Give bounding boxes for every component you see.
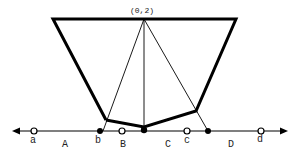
open-point-B bbox=[119, 128, 125, 134]
filled-point-center bbox=[141, 127, 147, 133]
thick-polygon bbox=[53, 19, 236, 127]
point-label-b: b bbox=[95, 135, 101, 146]
open-point-c bbox=[184, 128, 190, 134]
region-label-D: D bbox=[228, 139, 234, 150]
point-label-c: c bbox=[184, 135, 190, 146]
region-label-B: B bbox=[120, 139, 126, 150]
ray-to-d bbox=[144, 19, 208, 131]
apex-rays bbox=[103, 19, 208, 131]
filled-point-b bbox=[97, 128, 103, 134]
left-arrow-icon bbox=[12, 128, 20, 135]
point-label-d: d bbox=[257, 134, 263, 145]
filled-point-d bbox=[205, 128, 211, 134]
apex-label: (0,2) bbox=[130, 6, 154, 15]
point-label-a: a bbox=[30, 135, 36, 146]
open-point-a bbox=[31, 128, 37, 134]
right-arrow-icon bbox=[280, 128, 288, 135]
number-line bbox=[12, 128, 288, 135]
region-label-A: A bbox=[62, 139, 68, 150]
diagram-canvas: (0,2) a A b B C c D d bbox=[0, 0, 300, 154]
region-label-C: C bbox=[165, 139, 171, 150]
ray-to-b bbox=[103, 19, 144, 131]
